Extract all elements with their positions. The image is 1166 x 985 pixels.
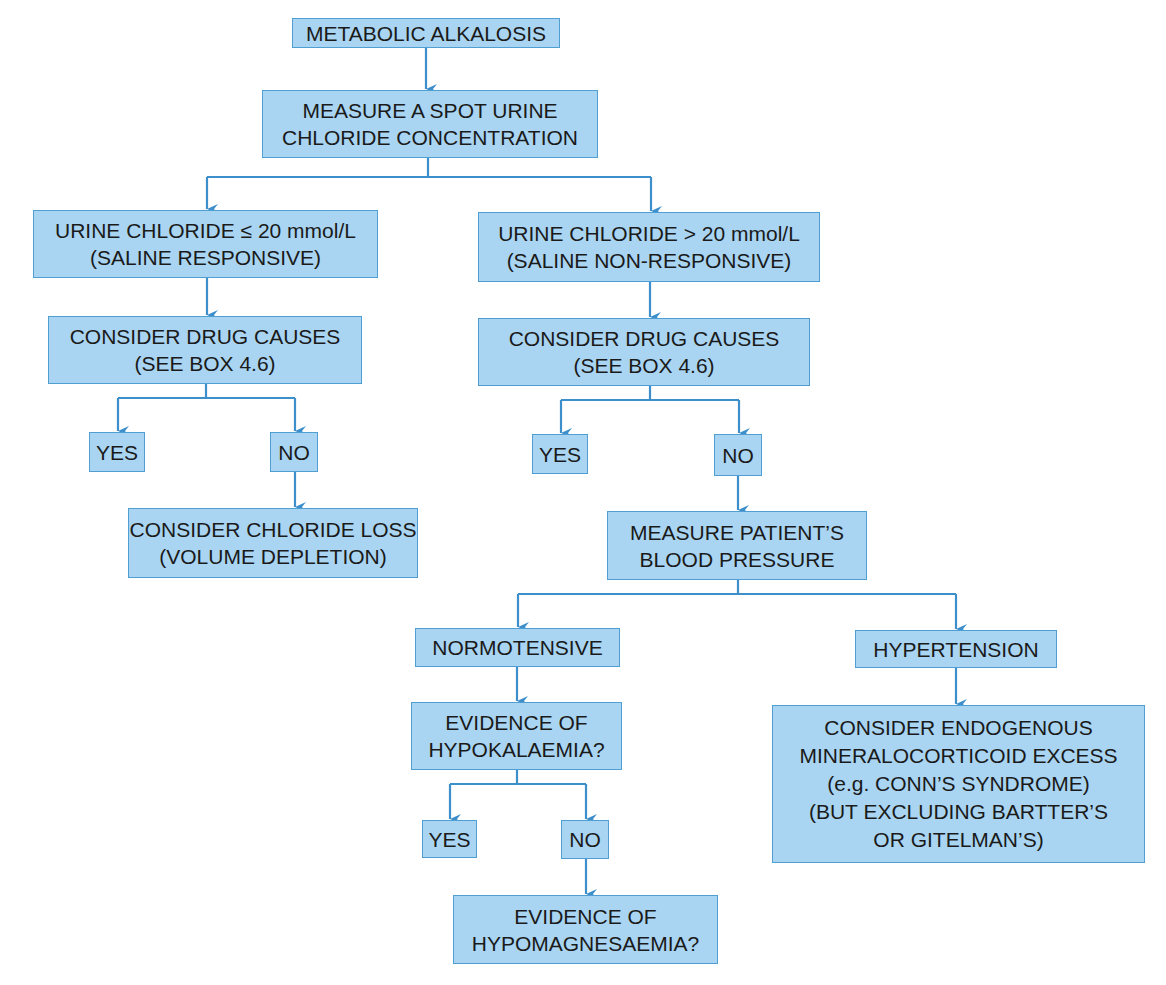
node-text: URINE CHLORIDE > 20 mmol/L xyxy=(498,220,800,247)
node-text: HYPOKALAEMIA? xyxy=(428,736,604,763)
node-yes-hypokalaemia: YES xyxy=(422,820,477,858)
node-hypomagnesaemia: EVIDENCE OF HYPOMAGNESAEMIA? xyxy=(453,895,718,964)
node-text: MEASURE PATIENT’S xyxy=(630,519,844,546)
node-no-right: NO xyxy=(714,434,762,476)
node-text: CONSIDER DRUG CAUSES xyxy=(70,323,341,350)
connector-bp-split xyxy=(518,580,956,594)
node-text: MEASURE A SPOT URINE xyxy=(302,97,557,124)
node-drug-causes-right: CONSIDER DRUG CAUSES (SEE BOX 4.6) xyxy=(478,318,810,386)
node-text: CONSIDER CHLORIDE LOSS xyxy=(129,516,416,543)
node-blood-pressure: MEASURE PATIENT’S BLOOD PRESSURE xyxy=(607,511,867,580)
node-no-left: NO xyxy=(270,432,318,472)
node-text: METABOLIC ALKALOSIS xyxy=(306,20,546,47)
node-text: HYPERTENSION xyxy=(873,636,1038,663)
node-text: EVIDENCE OF xyxy=(445,709,587,736)
node-hypertension: HYPERTENSION xyxy=(855,630,1057,668)
node-text: NO xyxy=(278,439,310,466)
node-text: (e.g. CONN’S SYNDROME) xyxy=(827,770,1090,798)
connector-hypok-split xyxy=(450,770,586,784)
flowchart-canvas: METABOLIC ALKALOSIS MEASURE A SPOT URINE… xyxy=(0,0,1166,985)
node-text: YES xyxy=(539,441,581,468)
node-text: EVIDENCE OF xyxy=(514,903,656,930)
node-measure-urine-chloride: MEASURE A SPOT URINE CHLORIDE CONCENTRAT… xyxy=(262,90,598,158)
node-hypokalaemia: EVIDENCE OF HYPOKALAEMIA? xyxy=(411,702,622,770)
connector-drug-left-split xyxy=(118,384,295,398)
node-urine-chloride-low: URINE CHLORIDE ≤ 20 mmol/L (SALINE RESPO… xyxy=(33,210,378,278)
node-text: YES xyxy=(96,439,138,466)
node-text: (BUT EXCLUDING BARTTER’S xyxy=(809,798,1108,826)
node-no-hypokalaemia: NO xyxy=(561,820,609,859)
node-text: HYPOMAGNESAEMIA? xyxy=(472,930,700,957)
node-text: CHLORIDE CONCENTRATION xyxy=(282,124,578,151)
node-text: BLOOD PRESSURE xyxy=(640,546,835,573)
node-text: (VOLUME DEPLETION) xyxy=(159,543,387,570)
node-text: (SALINE RESPONSIVE) xyxy=(90,244,321,271)
node-text: CONSIDER DRUG CAUSES xyxy=(509,325,780,352)
node-text: OR GITELMAN’S) xyxy=(873,826,1043,854)
node-text: (SEE BOX 4.6) xyxy=(134,350,275,377)
node-text: MINERALOCORTICOID EXCESS xyxy=(799,742,1117,770)
node-yes-left: YES xyxy=(89,432,145,472)
node-text: YES xyxy=(428,826,470,853)
node-endogenous-mineralocorticoid: CONSIDER ENDOGENOUS MINERALOCORTICOID EX… xyxy=(772,705,1145,863)
node-text: NO xyxy=(722,442,754,469)
node-drug-causes-left: CONSIDER DRUG CAUSES (SEE BOX 4.6) xyxy=(48,316,362,384)
node-text: NORMOTENSIVE xyxy=(432,634,602,661)
node-text: NO xyxy=(569,826,601,853)
connector-drug-right-split xyxy=(561,386,739,400)
node-text: CONSIDER ENDOGENOUS xyxy=(824,714,1092,742)
node-text: URINE CHLORIDE ≤ 20 mmol/L xyxy=(55,217,356,244)
node-metabolic-alkalosis: METABOLIC ALKALOSIS xyxy=(292,18,560,48)
node-chloride-loss: CONSIDER CHLORIDE LOSS (VOLUME DEPLETION… xyxy=(128,508,418,578)
node-normotensive: NORMOTENSIVE xyxy=(415,628,620,667)
node-urine-chloride-high: URINE CHLORIDE > 20 mmol/L (SALINE NON-R… xyxy=(478,212,820,282)
node-yes-right: YES xyxy=(532,434,588,474)
node-text: (SEE BOX 4.6) xyxy=(573,352,714,379)
node-text: (SALINE NON-RESPONSIVE) xyxy=(507,247,792,274)
